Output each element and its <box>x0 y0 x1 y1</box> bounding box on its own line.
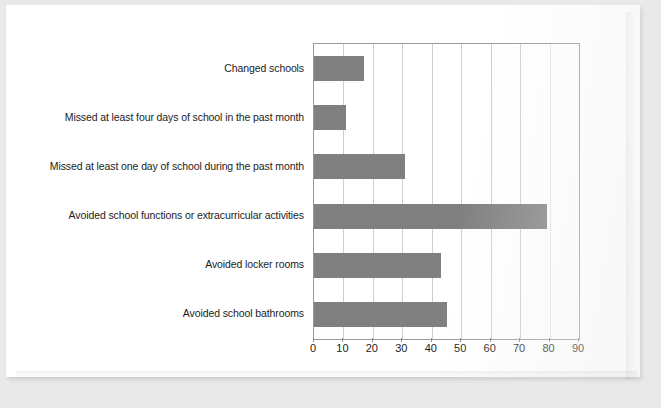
x-tick-mark-70 <box>519 338 520 342</box>
bars-layer <box>314 44 579 339</box>
x-tick-mark-40 <box>431 338 432 342</box>
x-tick-mark-60 <box>490 338 491 342</box>
bar-row <box>314 142 579 191</box>
bar[interactable] <box>314 105 346 130</box>
bar-row <box>314 192 579 241</box>
x-tick-label-60: 60 <box>484 342 496 354</box>
x-tick-label-0: 0 <box>310 342 316 354</box>
bar[interactable] <box>314 56 364 81</box>
bar[interactable] <box>314 154 405 179</box>
category-label: Missed at least four days of school in t… <box>65 92 304 141</box>
bar-row <box>314 241 579 290</box>
x-tick-mark-10 <box>342 338 343 342</box>
x-tick-mark-30 <box>401 338 402 342</box>
x-tick-label-30: 30 <box>395 342 407 354</box>
x-tick-label-10: 10 <box>336 342 348 354</box>
category-label: Avoided school functions or extracurricu… <box>69 191 304 240</box>
x-tick-mark-50 <box>460 338 461 342</box>
bar[interactable] <box>314 253 441 278</box>
plot-area <box>313 43 580 340</box>
bar[interactable] <box>314 204 547 229</box>
x-tick-label-80: 80 <box>542 342 554 354</box>
category-label: Changed schools <box>224 43 304 92</box>
bar-row <box>314 290 579 339</box>
x-tick-label-90: 90 <box>572 342 584 354</box>
x-tick-mark-80 <box>549 338 550 342</box>
x-tick-label-70: 70 <box>513 342 525 354</box>
bar-row <box>314 44 579 93</box>
x-tick-label-20: 20 <box>366 342 378 354</box>
category-axis-labels: Changed schoolsMissed at least four days… <box>26 43 309 338</box>
category-label: Missed at least one day of school during… <box>50 141 304 190</box>
bar-row <box>314 93 579 142</box>
page-bottom-shadow <box>16 371 638 380</box>
category-label: Avoided locker rooms <box>205 240 304 289</box>
x-axis-tick-labels: 0102030405060708090 <box>313 342 580 360</box>
bar-chart-figure: Changed schoolsMissed at least four days… <box>6 5 640 377</box>
category-label: Avoided school bathrooms <box>183 289 304 338</box>
page-edge-shadow <box>626 12 636 380</box>
bar[interactable] <box>314 302 447 327</box>
x-tick-mark-20 <box>372 338 373 342</box>
x-tick-mark-0 <box>313 338 314 342</box>
x-tick-label-40: 40 <box>425 342 437 354</box>
x-tick-label-50: 50 <box>454 342 466 354</box>
x-tick-mark-90 <box>578 338 579 342</box>
scanned-page-sheet: Changed schoolsMissed at least four days… <box>6 5 640 377</box>
